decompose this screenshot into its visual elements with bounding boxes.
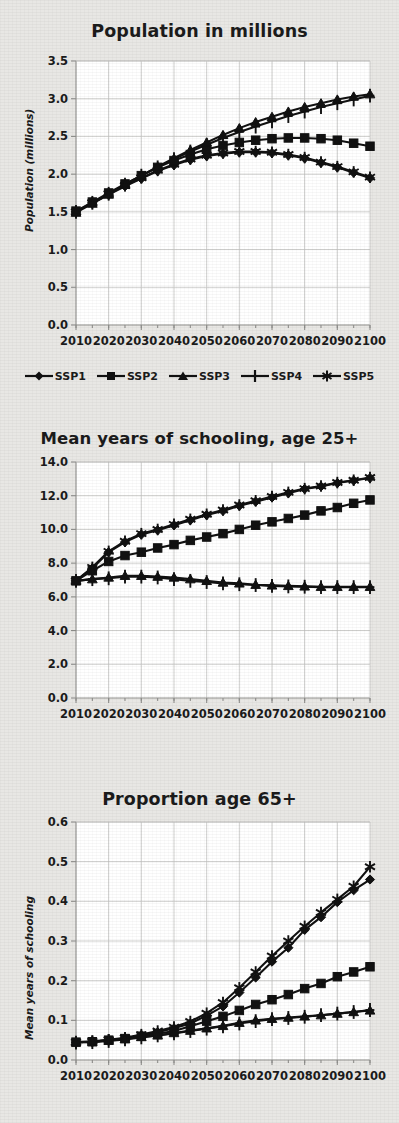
legend-item-ssp1[interactable]: SSP1: [25, 369, 86, 383]
svg-text:8.0: 8.0: [48, 556, 68, 570]
svg-text:14.0: 14.0: [40, 455, 68, 469]
legend-marker-plus: [241, 369, 269, 383]
svg-text:2070: 2070: [256, 1069, 288, 1083]
svg-text:2020: 2020: [93, 1069, 125, 1083]
legend-label-ssp4: SSP4: [271, 370, 302, 383]
svg-text:0.2: 0.2: [48, 974, 68, 988]
svg-text:2090: 2090: [321, 707, 353, 721]
svg-text:2030: 2030: [125, 334, 157, 348]
svg-text:2080: 2080: [289, 707, 321, 721]
svg-text:12.0: 12.0: [40, 489, 68, 503]
svg-text:2070: 2070: [256, 707, 288, 721]
svg-text:2030: 2030: [125, 1069, 157, 1083]
svg-text:2040: 2040: [158, 1069, 190, 1083]
svg-text:2050: 2050: [191, 334, 223, 348]
svg-text:2.0: 2.0: [48, 657, 68, 671]
plot-area-proportion65: 0.00.10.20.30.40.50.62010202020302040205…: [0, 760, 399, 1123]
legend-label-ssp3: SSP3: [199, 370, 230, 383]
svg-text:2030: 2030: [125, 707, 157, 721]
svg-text:2060: 2060: [223, 707, 255, 721]
svg-text:2020: 2020: [93, 334, 125, 348]
legend-marker-triangle: [169, 369, 197, 383]
svg-text:2050: 2050: [191, 707, 223, 721]
svg-text:2.0: 2.0: [48, 167, 68, 181]
svg-text:2010: 2010: [60, 334, 92, 348]
svg-text:6.0: 6.0: [48, 590, 68, 604]
svg-text:2060: 2060: [223, 334, 255, 348]
svg-text:0.4: 0.4: [48, 894, 68, 908]
svg-text:0.3: 0.3: [48, 934, 68, 948]
svg-text:0.0: 0.0: [48, 691, 68, 705]
svg-text:2100: 2100: [354, 1069, 386, 1083]
svg-text:2080: 2080: [289, 334, 321, 348]
svg-text:0.0: 0.0: [48, 1053, 68, 1067]
svg-text:2090: 2090: [321, 334, 353, 348]
plot-svg-population: 0.00.51.01.52.02.53.03.52010202020302040…: [0, 0, 399, 400]
svg-text:0.5: 0.5: [48, 855, 68, 869]
plot-svg-proportion65: 0.00.10.20.30.40.50.62010202020302040205…: [0, 760, 399, 1123]
legend-item-ssp4[interactable]: SSP4: [241, 369, 302, 383]
svg-text:10.0: 10.0: [40, 522, 68, 536]
svg-text:0.0: 0.0: [48, 318, 68, 332]
svg-text:2060: 2060: [223, 1069, 255, 1083]
legend-marker-asterisk: [313, 369, 341, 383]
svg-text:2100: 2100: [354, 334, 386, 348]
svg-text:3.5: 3.5: [48, 54, 68, 68]
legend-label-ssp1: SSP1: [55, 370, 86, 383]
svg-text:2.5: 2.5: [48, 129, 68, 143]
chart-panel-proportion65: Proportion age 65+ Proportion 0.00.10.20…: [0, 760, 399, 1123]
svg-text:0.6: 0.6: [48, 815, 68, 829]
svg-text:2070: 2070: [256, 334, 288, 348]
plot-area-schooling: 0.02.04.06.08.010.012.014.02010202020302…: [0, 400, 399, 760]
svg-text:2010: 2010: [60, 707, 92, 721]
plot-svg-schooling: 0.02.04.06.08.010.012.014.02010202020302…: [0, 400, 399, 760]
chart-panel-population: Population in millions Population (milli…: [0, 0, 399, 400]
svg-text:2040: 2040: [158, 707, 190, 721]
plot-area-population: 0.00.51.01.52.02.53.03.52010202020302040…: [0, 0, 399, 400]
svg-text:2010: 2010: [60, 1069, 92, 1083]
svg-text:2050: 2050: [191, 1069, 223, 1083]
svg-text:0.1: 0.1: [48, 1013, 68, 1027]
legend-label-ssp2: SSP2: [127, 370, 158, 383]
svg-text:1.5: 1.5: [48, 205, 68, 219]
svg-text:2040: 2040: [158, 334, 190, 348]
legend-item-ssp2[interactable]: SSP2: [97, 369, 158, 383]
legend-item-ssp5[interactable]: SSP5: [313, 369, 374, 383]
legend-label-ssp5: SSP5: [343, 370, 374, 383]
legend-marker-diamond: [25, 369, 53, 383]
legend-marker-square: [97, 369, 125, 383]
svg-text:0.5: 0.5: [48, 280, 68, 294]
svg-text:4.0: 4.0: [48, 624, 68, 638]
chart-legend: SSP1 SSP2 SSP3 SSP4: [0, 364, 399, 388]
svg-text:2080: 2080: [289, 1069, 321, 1083]
legend-item-ssp3[interactable]: SSP3: [169, 369, 230, 383]
svg-text:1.0: 1.0: [48, 243, 68, 257]
svg-text:3.0: 3.0: [48, 92, 68, 106]
svg-text:2020: 2020: [93, 707, 125, 721]
svg-text:2100: 2100: [354, 707, 386, 721]
svg-text:2090: 2090: [321, 1069, 353, 1083]
chart-panel-schooling: Mean years of schooling, age 25+ Mean ye…: [0, 400, 399, 760]
